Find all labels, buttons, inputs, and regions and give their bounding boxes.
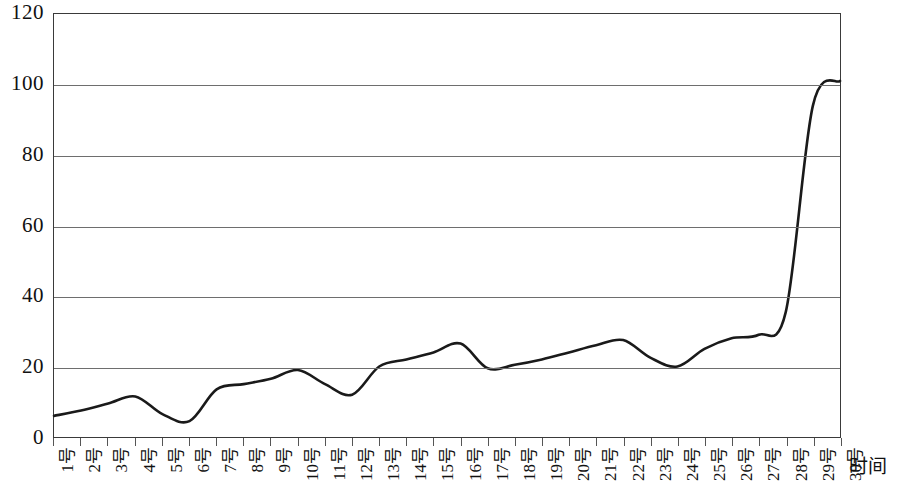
x-axis-tick xyxy=(596,438,597,446)
x-axis-tick-label-text: 26号 xyxy=(738,447,755,481)
line-chart: 120100806040200 1号2号3号4号5号6号7号8号9号10号11号… xyxy=(0,0,906,490)
x-axis-tick-label: 16号 xyxy=(459,447,476,481)
x-axis-tick xyxy=(488,438,489,446)
x-axis-tick-label-text: 14号 xyxy=(412,447,429,481)
x-axis-tick xyxy=(759,438,760,446)
x-axis-tick xyxy=(80,438,81,446)
x-axis-tick-label-text: 20号 xyxy=(575,447,592,481)
x-axis-tick-label-text: 29号 xyxy=(820,447,837,481)
x-axis-tick-label: 22号 xyxy=(622,447,639,481)
gridline xyxy=(54,227,840,228)
x-axis-tick xyxy=(352,438,353,446)
x-axis-tick-label: 19号 xyxy=(540,447,557,481)
series-line xyxy=(54,14,840,437)
series-path xyxy=(54,80,840,422)
x-axis-tick xyxy=(162,438,163,446)
x-axis-tick-label-text: 2号 xyxy=(86,447,103,473)
x-axis-tick-label-text: 5号 xyxy=(168,447,185,473)
x-axis-tick xyxy=(216,438,217,446)
y-axis-labels: 120100806040200 xyxy=(0,0,44,490)
gridline xyxy=(54,85,840,86)
x-axis-tick xyxy=(678,438,679,446)
x-axis-tick-label-text: 19号 xyxy=(548,447,565,481)
x-axis-tick-label-text: 27号 xyxy=(765,447,782,481)
x-axis-tick-label: 23号 xyxy=(649,447,666,481)
x-axis-tick-label: 26号 xyxy=(730,447,747,481)
x-axis-tick-label: 1号 xyxy=(51,447,68,473)
x-axis-tick xyxy=(298,438,299,446)
x-axis-tick xyxy=(325,438,326,446)
x-axis-tick-label: 8号 xyxy=(241,447,258,473)
x-axis-tick-label-text: 7号 xyxy=(222,447,239,473)
x-axis-tick-label: 11号 xyxy=(323,447,340,480)
y-axis-tick-label: 100 xyxy=(0,73,44,94)
y-axis-tick-label: 120 xyxy=(0,2,44,23)
x-axis-tick-label-text: 11号 xyxy=(331,447,348,480)
y-axis-tick-label: 80 xyxy=(0,144,44,165)
x-axis-tick-label-text: 13号 xyxy=(385,447,402,481)
x-axis-tick-label: 14号 xyxy=(404,447,421,481)
x-axis-tick xyxy=(651,438,652,446)
x-axis-tick xyxy=(461,438,462,446)
x-axis-tick xyxy=(542,438,543,446)
x-axis-tick xyxy=(569,438,570,446)
x-axis-tick xyxy=(515,438,516,446)
x-axis-tick-label-text: 9号 xyxy=(276,447,293,473)
x-axis-tick-label-text: 28号 xyxy=(793,447,810,481)
x-axis-title: 时间 xyxy=(849,456,887,478)
plot-area xyxy=(53,13,841,438)
y-axis-tick-label: 20 xyxy=(0,356,44,377)
x-axis-tick-label-text: 22号 xyxy=(630,447,647,481)
x-axis-tick-label-text: 4号 xyxy=(141,447,158,473)
x-axis-tick-label: 29号 xyxy=(812,447,829,481)
gridline xyxy=(54,368,840,369)
x-axis-tick-label: 27号 xyxy=(757,447,774,481)
x-axis-tick xyxy=(814,438,815,446)
x-axis-tick-label: 18号 xyxy=(513,447,530,481)
x-axis-tick xyxy=(53,438,54,446)
x-axis-tick-label-text: 17号 xyxy=(494,447,511,481)
x-axis-tick xyxy=(406,438,407,446)
x-axis-tick-label: 5号 xyxy=(160,447,177,473)
x-axis-tick-label: 6号 xyxy=(187,447,204,473)
x-axis-tick-label-text: 12号 xyxy=(358,447,375,481)
x-axis-ticks xyxy=(53,438,841,447)
x-axis-tick-label: 21号 xyxy=(594,447,611,481)
x-axis-tick-label-text: 15号 xyxy=(439,447,456,481)
x-axis-tick xyxy=(135,438,136,446)
x-axis-tick-label: 7号 xyxy=(214,447,231,473)
x-axis-tick xyxy=(732,438,733,446)
x-axis-tick xyxy=(270,438,271,446)
x-axis-tick-label: 3号 xyxy=(105,447,122,473)
x-axis-tick-label-text: 24号 xyxy=(684,447,701,481)
x-axis-tick xyxy=(243,438,244,446)
x-axis-tick-label: 15号 xyxy=(431,447,448,481)
x-axis-tick-label: 9号 xyxy=(268,447,285,473)
x-axis-tick-label: 20号 xyxy=(567,447,584,481)
x-axis-tick-label: 10号 xyxy=(296,447,313,481)
x-axis-tick-label-text: 21号 xyxy=(602,447,619,481)
x-axis-tick-label-text: 10号 xyxy=(304,447,321,481)
gridline xyxy=(54,156,840,157)
x-axis-tick-label-text: 8号 xyxy=(249,447,266,473)
x-axis-tick-label: 13号 xyxy=(377,447,394,481)
x-axis-tick-label: 12号 xyxy=(350,447,367,481)
x-axis-tick xyxy=(705,438,706,446)
x-axis-tick xyxy=(787,438,788,446)
x-axis-tick-label-text: 3号 xyxy=(113,447,130,473)
y-axis-tick-label: 0 xyxy=(0,427,44,448)
x-axis-tick-label: 25号 xyxy=(703,447,720,481)
x-axis-tick-label: 28号 xyxy=(785,447,802,481)
x-axis-tick xyxy=(624,438,625,446)
x-axis-tick xyxy=(379,438,380,446)
y-axis-tick-label: 40 xyxy=(0,285,44,306)
gridline xyxy=(54,297,840,298)
x-axis-tick-label-text: 18号 xyxy=(521,447,538,481)
x-axis-tick-label: 24号 xyxy=(676,447,693,481)
x-axis-tick xyxy=(107,438,108,446)
x-axis-tick-label-text: 25号 xyxy=(711,447,728,481)
x-axis-tick-label-text: 16号 xyxy=(467,447,484,481)
x-axis-tick-label-text: 6号 xyxy=(195,447,212,473)
x-axis-tick-label-text: 23号 xyxy=(657,447,674,481)
x-axis-tick xyxy=(841,438,842,446)
